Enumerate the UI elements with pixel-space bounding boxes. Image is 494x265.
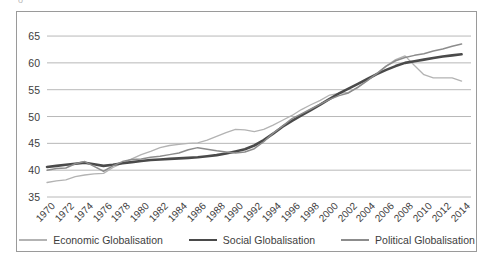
y-tick-label: 60 — [14, 58, 40, 68]
clipped-glyph: o — [18, 0, 30, 5]
y-tick-label: 55 — [14, 85, 40, 95]
legend-label: Social Globalisation — [223, 235, 315, 246]
legend-swatch-political — [341, 239, 369, 241]
y-tick-label: 45 — [14, 138, 40, 148]
y-tick-label: 65 — [14, 31, 40, 41]
y-tick-label: 35 — [14, 192, 40, 202]
legend-entry: Economic Globalisation — [19, 235, 163, 246]
legend-entry: Social Globalisation — [189, 235, 315, 246]
legend-swatch-economic — [19, 239, 47, 240]
legend-label: Political Globalisation — [375, 235, 475, 246]
legend-label: Economic Globalisation — [53, 235, 163, 246]
y-tick-label: 40 — [14, 165, 40, 175]
legend-entry: Political Globalisation — [341, 235, 475, 246]
chart-legend: Economic GlobalisationSocial Globalisati… — [26, 233, 468, 247]
legend-swatch-social — [189, 239, 217, 242]
y-tick-label: 50 — [14, 112, 40, 122]
globalisation-line-chart: o 35404550556065 19701972197419761978198… — [0, 0, 494, 265]
